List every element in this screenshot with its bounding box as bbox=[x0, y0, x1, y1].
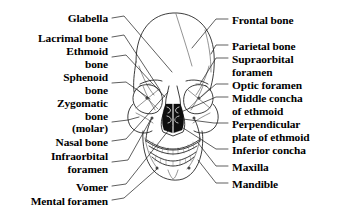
label-parietal-bone: Parietal bone bbox=[232, 40, 296, 53]
label-mandible: Mandible bbox=[232, 178, 278, 191]
label-lacrimal-bone: Lacrimal bone bbox=[38, 32, 108, 45]
label-vomer: Vomer bbox=[76, 181, 108, 194]
label-zygomatic-bone: Zygomatic bone (molar) bbox=[57, 97, 108, 135]
label-optic-foramen: Optic foramen bbox=[232, 79, 302, 92]
label-inferior-concha: Inferior concha bbox=[232, 144, 306, 157]
label-mental-foramen: Mental foramen bbox=[31, 195, 108, 208]
label-infraorbital-foramen: Infraorbital foramen bbox=[51, 150, 108, 175]
label-middle-concha-of-ethmoid: Middle concha of ethmoid bbox=[232, 92, 303, 117]
label-glabella: Glabella bbox=[68, 12, 108, 25]
label-ethmoid-bone: Ethmoid bone bbox=[66, 45, 108, 70]
label-supraorbital-foramen: Supraorbital foramen bbox=[232, 53, 293, 78]
label-frontal-bone: Frontal bone bbox=[232, 14, 294, 27]
label-sphenoid-bone: Sphenoid bone bbox=[63, 71, 108, 96]
label-perpendicular-plate-of-ethmoid: Perpendicular plate of ethmoid bbox=[232, 118, 310, 143]
label-maxilla: Maxilla bbox=[232, 161, 269, 174]
label-nasal-bone: Nasal bone bbox=[56, 136, 108, 149]
skull-anatomy-figure: Glabella Lacrimal bone Ethmoid bone Sphe… bbox=[0, 0, 342, 219]
